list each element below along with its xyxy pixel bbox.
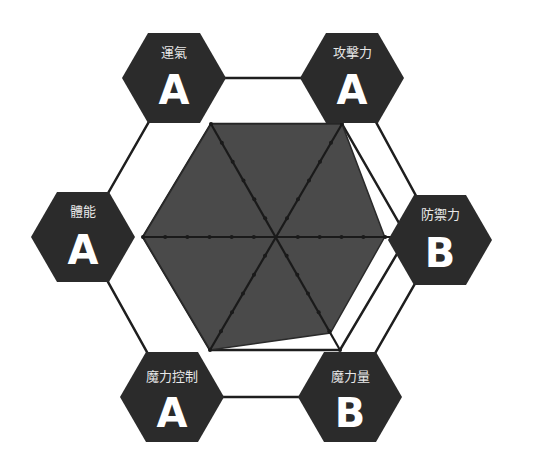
axis-tick	[220, 141, 224, 145]
badge-grade: A	[157, 390, 188, 436]
axis-tick	[263, 254, 267, 258]
axis-tick	[307, 179, 311, 183]
axis-tick	[329, 141, 333, 145]
axis-tick	[163, 235, 167, 239]
axis-tick	[231, 160, 235, 164]
badge-defense: 防禦力 B	[388, 195, 492, 285]
axis-tick	[208, 348, 212, 352]
axis-tick	[242, 179, 246, 183]
badge-grade: A	[68, 227, 99, 273]
axis-tick	[141, 235, 145, 239]
badge-label: 魔力量	[331, 369, 370, 384]
badge-label: 運氣	[161, 45, 187, 60]
badge-mana-control: 魔力控制 A	[120, 352, 224, 442]
axis-tick	[340, 235, 344, 239]
radar-chart: 運氣 A 攻擊力 A 防禦力 B 魔力量 B 魔力控制 A 體能 A	[0, 0, 550, 475]
axis-tick	[263, 216, 267, 220]
badge-mana-amount: 魔力量 B	[298, 352, 402, 442]
badge-grade: A	[159, 67, 190, 113]
axis-tick	[361, 235, 365, 239]
axis-tick	[296, 235, 300, 239]
axis-tick	[230, 310, 234, 314]
axis-tick	[208, 235, 212, 239]
axis-tick	[318, 160, 322, 164]
badge-label: 魔力控制	[146, 369, 198, 384]
axis-tick	[252, 197, 256, 201]
axis-tick	[230, 235, 234, 239]
axis-tick	[219, 329, 223, 333]
axis-tick	[295, 273, 299, 277]
badge-label: 防禦力	[421, 207, 460, 222]
badge-attack: 攻擊力 A	[300, 33, 404, 123]
badge-luck: 運氣 A	[122, 33, 226, 123]
axis-tick	[296, 197, 300, 201]
axis-tick	[317, 310, 321, 314]
axis-tick	[327, 329, 331, 333]
badge-grade: A	[337, 67, 368, 113]
badge-stamina: 體能 A	[31, 192, 135, 282]
axis-tick	[318, 235, 322, 239]
axis-tick	[209, 122, 213, 126]
axis-tick	[241, 292, 245, 296]
axis-tick	[252, 235, 256, 239]
badge-grade: B	[425, 230, 456, 276]
badge-label: 體能	[70, 204, 96, 219]
axis-tick	[338, 348, 342, 352]
axis-tick	[252, 273, 256, 277]
axis-tick	[285, 254, 289, 258]
axis-tick	[185, 235, 189, 239]
badge-label: 攻擊力	[333, 45, 372, 60]
badge-grade: B	[335, 390, 366, 436]
axis-tick	[383, 235, 387, 239]
axis-tick	[285, 216, 289, 220]
axis-tick	[306, 292, 310, 296]
